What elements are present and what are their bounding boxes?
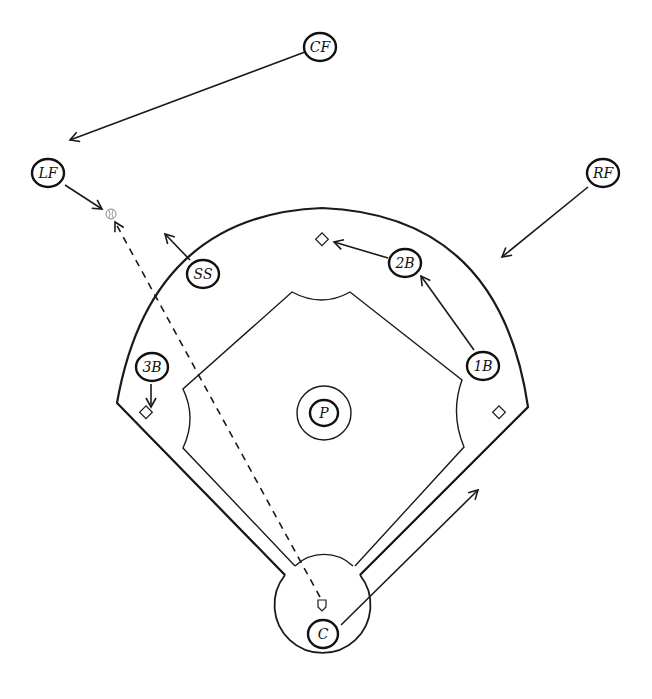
home-plate-icon — [318, 600, 326, 611]
player-label: 2B — [394, 255, 414, 271]
player-ss: SS — [187, 260, 219, 288]
third-base-icon — [140, 406, 153, 419]
movement-arrows — [65, 52, 588, 625]
first-base-icon — [493, 406, 506, 419]
player-label: C — [318, 626, 329, 642]
cf-arrow — [70, 52, 305, 140]
player-label: SS — [194, 266, 213, 282]
baseball-diagram: CF LF RF SS 2B 3B 1B P — [0, 0, 652, 699]
player-c: C — [308, 620, 338, 648]
outfield-boundary — [117, 208, 528, 575]
player-lf: LF — [32, 159, 64, 187]
ss-arrow — [165, 234, 190, 260]
player-rf: RF — [587, 159, 619, 187]
player-cf: CF — [304, 33, 336, 61]
player-p: P — [310, 400, 338, 426]
c-arrow — [341, 490, 478, 625]
player-3b: 3B — [136, 353, 168, 381]
field-canvas: CF LF RF SS 2B 3B 1B P — [0, 0, 652, 699]
player-label: CF — [310, 39, 332, 55]
player-label: 1B — [473, 358, 492, 374]
player-label: RF — [592, 165, 615, 181]
baseball-icon — [106, 209, 116, 219]
player-label: LF — [37, 165, 58, 181]
player-1b: 1B — [467, 352, 499, 380]
infield-diamond — [117, 292, 528, 575]
2b-arrow — [334, 242, 388, 258]
1b-arrow — [421, 276, 474, 350]
second-base-icon — [316, 233, 329, 246]
rf-arrow — [502, 187, 588, 257]
player-label: P — [318, 405, 329, 421]
player-label: 3B — [142, 359, 161, 375]
lf-arrow — [65, 185, 102, 209]
player-2b: 2B — [389, 249, 421, 277]
